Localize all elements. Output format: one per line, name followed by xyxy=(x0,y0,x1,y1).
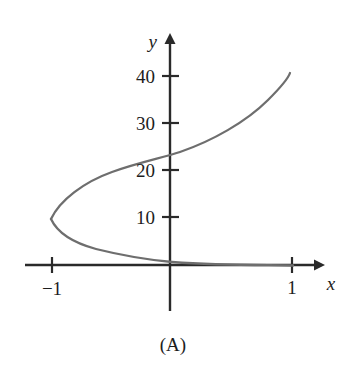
axes-group xyxy=(25,33,325,311)
figure-panel: 40 30 20 10 −1 1 y x (A) xyxy=(0,0,346,367)
y-axis-label: y xyxy=(147,31,158,52)
x-axis-label: x xyxy=(326,273,336,294)
y-tick-label-30: 30 xyxy=(136,113,155,134)
y-tick-label-40: 40 xyxy=(136,66,155,87)
x-tick-label-1: 1 xyxy=(287,277,297,298)
y-axis-arrow-icon xyxy=(165,33,176,44)
x-tick-label-neg1: −1 xyxy=(42,278,62,299)
y-tick-label-10: 10 xyxy=(136,207,155,228)
y-tick-label-20: 20 xyxy=(136,160,155,181)
graph-canvas: 40 30 20 10 −1 1 y x (A) xyxy=(0,0,346,367)
x-axis-arrow-icon xyxy=(314,260,325,271)
axis-name-labels-group: y x xyxy=(147,31,336,294)
panel-caption: (A) xyxy=(160,334,186,356)
tick-marks-group xyxy=(52,76,292,273)
curve-lower-branch xyxy=(51,219,293,266)
